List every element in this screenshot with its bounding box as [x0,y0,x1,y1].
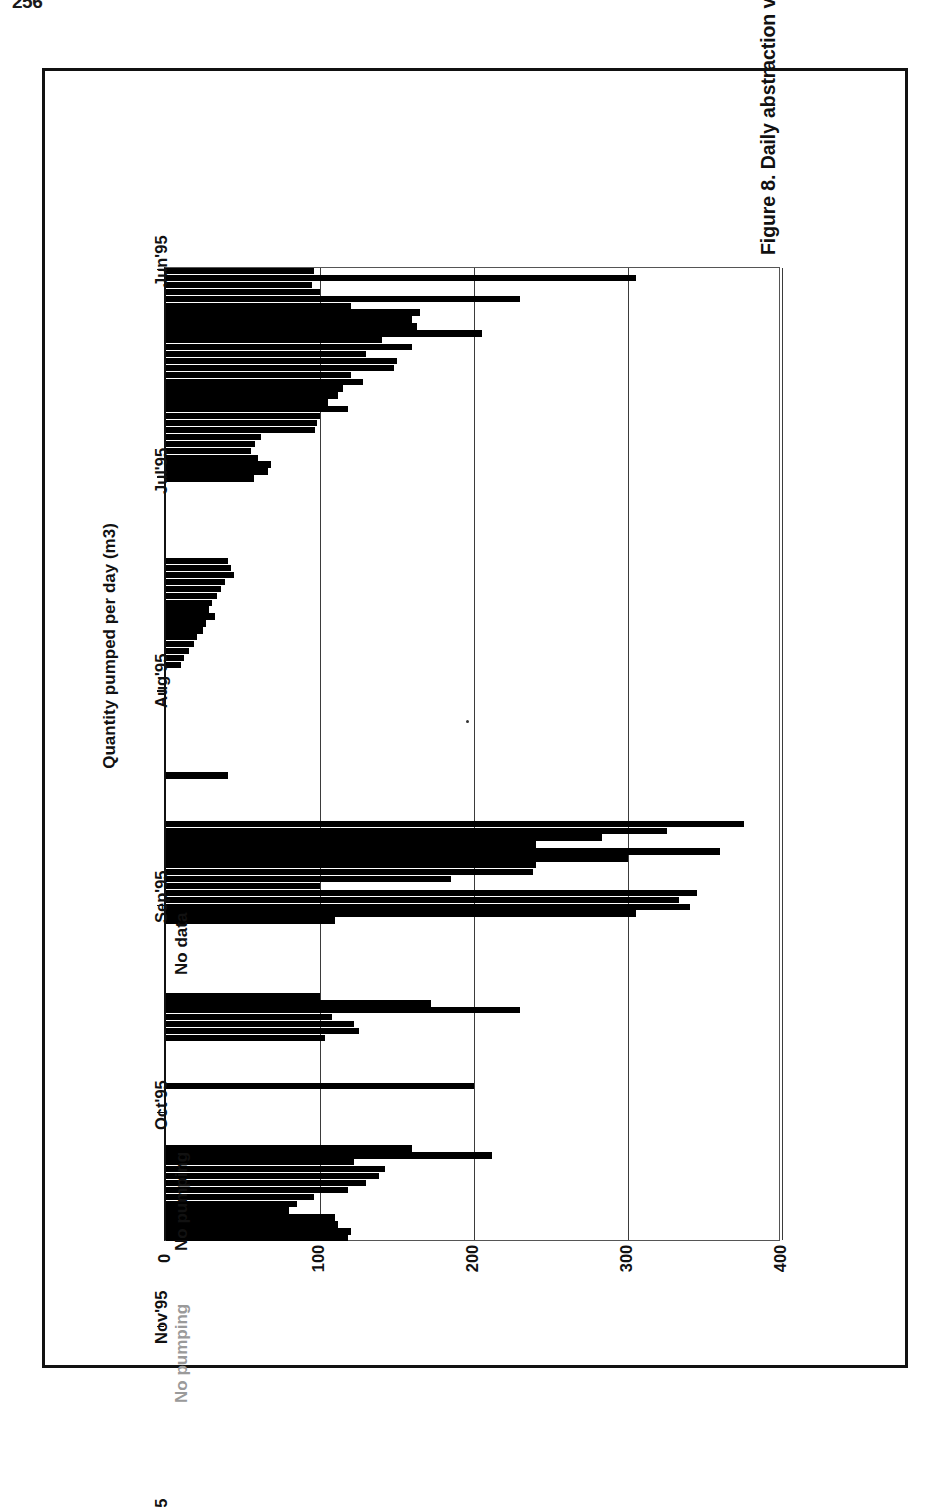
bar [166,441,255,447]
bar [166,606,209,612]
bar [166,834,602,840]
plot-annotation: No pumping [172,1304,192,1403]
plot-area: No dataNo pumpingNo pumpingNo pumpingNo … [164,267,780,1241]
bar [166,475,254,481]
gridline-300 [628,268,629,1240]
bar [166,904,690,910]
bar [166,1166,385,1172]
plot-annotation: No data [172,912,192,974]
bar [166,1180,366,1186]
bar [166,862,536,868]
bar [166,455,258,461]
bar [166,282,312,288]
bar [166,565,231,571]
month-label-jul95: Jul'95 [152,448,171,494]
bar [166,855,628,861]
bar [166,1159,354,1165]
month-label-oct95: Oct'95 [152,1080,171,1130]
bar [166,821,744,827]
bar [166,579,225,585]
bar [166,641,194,647]
chart-stage: Quantity pumped per day (m3) No dataNo p… [45,71,911,1371]
bar [166,897,679,903]
value-tick-300: 300 [617,1236,636,1282]
bar [166,392,338,398]
bar [166,1173,379,1179]
bar [166,876,451,882]
month-tick-1 [157,476,164,477]
bar [166,883,320,889]
bar [166,1028,359,1034]
bar [166,1152,492,1158]
bar [166,296,520,302]
bar [166,316,412,322]
bar [166,993,320,999]
bar [166,385,343,391]
bar [166,372,351,378]
bar [166,275,636,281]
bar [166,1228,351,1234]
month-label-jun95: Jun'95 [152,235,171,287]
bar [166,379,363,385]
bar [166,890,697,896]
plot-annotation: No pumping [172,1152,192,1251]
value-tick-200: 200 [463,1236,482,1282]
bar [166,330,482,336]
page-number: 256 [12,0,42,13]
bar [166,620,206,626]
bar [166,358,397,364]
bar [166,1187,348,1193]
bar [166,365,394,371]
month-label-nov95: Nov'95 [152,1290,171,1343]
bar [166,323,417,329]
figure-caption: Figure 8. Daily abstraction volumes from… [757,0,780,255]
bar [166,1000,431,1006]
bar [166,627,203,633]
month-tick-2 [157,690,164,691]
bar [166,434,261,440]
bar [166,289,320,295]
month-label-dec95: Dec'95 [152,1499,171,1507]
bar [166,593,217,599]
value-tick-0: 0 [155,1236,174,1282]
bar [166,303,351,309]
bar [166,1021,354,1027]
bar [166,586,221,592]
month-tick-5 [157,1326,164,1327]
bar [166,848,720,854]
bar [166,406,348,412]
value-tick-100: 100 [309,1236,328,1282]
bar [166,351,366,357]
month-label-sep95: Sep'95 [152,870,171,923]
bar [166,268,314,274]
bar [166,420,317,426]
bar [166,772,228,778]
gridline-100 [320,268,321,1240]
bar [166,634,197,640]
month-tick-4 [157,1112,164,1113]
bar [166,828,667,834]
month-tick-0 [157,269,164,270]
gridline-400 [782,268,783,1240]
bar [166,869,533,875]
bar [166,1145,412,1151]
bar [166,613,215,619]
bar [166,448,251,454]
bar [166,344,412,350]
bar [166,841,536,847]
bar [166,413,320,419]
bar [166,468,268,474]
bar [166,600,212,606]
bar [166,1007,520,1013]
axis-title-quantity: Quantity pumped per day (m3) [100,386,120,906]
figure-frame: Quantity pumped per day (m3) No dataNo p… [42,68,908,1368]
bar [166,337,382,343]
month-label-aug95: Aug'95 [152,654,171,708]
bar [166,309,420,315]
gridline-200 [474,268,475,1240]
value-tick-400: 400 [771,1236,790,1282]
bar [166,558,228,564]
bar [166,427,315,433]
bar [166,1083,474,1089]
bar [166,1035,325,1041]
